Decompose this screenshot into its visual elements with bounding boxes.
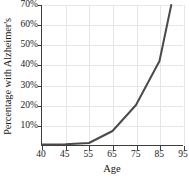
x-tick-label: 45	[60, 150, 70, 160]
x-axis-title: Age	[41, 163, 183, 174]
y-tick-label: 30%	[21, 81, 38, 91]
y-tick-mark	[38, 65, 42, 66]
y-tick-mark	[38, 86, 42, 87]
plot-area	[41, 5, 183, 146]
y-tick-mark	[38, 45, 42, 46]
gridline-vertical	[184, 5, 185, 145]
y-tick-label: 10%	[21, 121, 38, 131]
y-tick-mark	[38, 25, 42, 26]
x-axis-tick-labels: 40455565758595	[41, 150, 183, 164]
y-tick-label: 20%	[21, 101, 38, 111]
data-series-line	[42, 5, 183, 145]
x-tick-label: 75	[131, 150, 141, 160]
y-tick-label: 50%	[21, 41, 38, 51]
x-tick-label: 40	[36, 150, 46, 160]
y-tick-mark	[38, 106, 42, 107]
y-tick-label: 60%	[21, 20, 38, 30]
x-tick-label: 95	[178, 150, 188, 160]
x-tick-label: 55	[84, 150, 94, 160]
y-tick-mark	[38, 5, 42, 6]
x-tick-label: 85	[155, 150, 165, 160]
y-axis-title-text: Percentage with Alzheimer's	[2, 18, 13, 135]
y-tick-mark	[38, 126, 42, 127]
y-tick-label: 40%	[21, 61, 38, 71]
y-tick-label: 70%	[21, 0, 38, 10]
x-tick-label: 65	[107, 150, 117, 160]
y-axis-tick-labels: 10%20%30%40%50%60%70%	[13, 0, 40, 152]
alzheimers-prevalence-chart: Percentage with Alzheimer's 10%20%30%40%…	[0, 0, 189, 179]
y-axis-title: Percentage with Alzheimer's	[0, 0, 14, 152]
